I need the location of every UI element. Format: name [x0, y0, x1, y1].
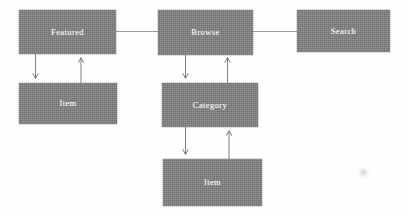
node-category[interactable]: Category — [162, 83, 258, 127]
node-browse-label: Browse — [191, 28, 219, 37]
node-item-bottom-label: Item — [204, 178, 221, 187]
node-search-label: Search — [331, 27, 357, 36]
node-featured-label: Featured — [51, 28, 84, 37]
node-search[interactable]: Search — [297, 10, 390, 52]
scan-speck — [357, 166, 370, 179]
node-featured[interactable]: Featured — [19, 10, 116, 54]
node-browse[interactable]: Browse — [158, 10, 253, 55]
diagram-canvas: Featured Browse Search Item Category Ite… — [0, 0, 410, 215]
node-item-left-label: Item — [59, 99, 76, 108]
node-item-bottom[interactable]: Item — [163, 159, 262, 206]
node-item-left[interactable]: Item — [19, 83, 117, 124]
node-category-label: Category — [193, 101, 227, 110]
